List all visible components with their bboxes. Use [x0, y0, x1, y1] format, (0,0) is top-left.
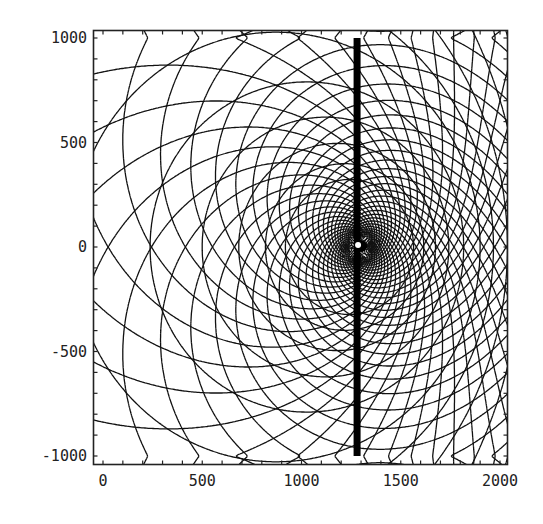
mesh-spiral-ccw — [91, 17, 516, 477]
x-tick-label: 500 — [189, 472, 216, 490]
mesh-spiral-cw — [91, 17, 516, 477]
y-tick-label: 500 — [60, 134, 87, 152]
y-axis-tick-labels: 10005000-500-1000 — [42, 29, 87, 465]
y-tick-label: 0 — [78, 238, 87, 256]
mesh-lines — [91, 17, 516, 477]
vertical-bar-layer — [354, 38, 367, 456]
y-tick-label: -1000 — [42, 447, 87, 465]
x-tick-label: 1500 — [383, 472, 419, 490]
x-axis-tick-labels: 0500100015002000 — [98, 472, 518, 490]
y-tick-label: -500 — [51, 343, 87, 361]
x-tick-label: 1000 — [283, 472, 319, 490]
x-tick-label: 0 — [98, 472, 107, 490]
x-tick-label: 2000 — [482, 472, 518, 490]
field-mesh-chart: 0500100015002000 10005000-500-1000 — [0, 0, 543, 524]
y-tick-label: 1000 — [51, 29, 87, 47]
focus-point — [355, 242, 361, 248]
mesh-circle — [285, 180, 413, 315]
